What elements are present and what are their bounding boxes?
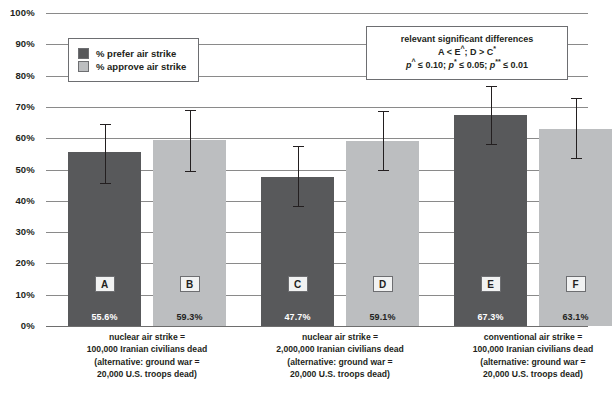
legend: % prefer air strike % approve air strike [68, 38, 199, 82]
x-axis-caption-line: 100,000 Iranian civilians dead [47, 343, 247, 355]
legend-item-approve: % approve air strike [78, 61, 186, 72]
x-axis-caption-line: 20,000 U.S. troops dead) [47, 368, 247, 380]
gridline [46, 232, 588, 233]
annotation-line-2: A < E^; D > C* [373, 46, 561, 59]
gridline [46, 107, 588, 108]
gridline [46, 326, 588, 327]
x-axis-caption-line: (alternative: ground war = [47, 356, 247, 368]
legend-swatch-prefer-icon [78, 48, 89, 59]
x-axis-caption-line: 100,000 Iranian civilians dead [433, 343, 616, 355]
y-axis-tick-label: 30% [0, 226, 35, 237]
x-axis-caption-line: 20,000 U.S. troops dead) [240, 368, 440, 380]
y-axis-tick-label: 60% [0, 132, 35, 143]
significance-annotation: relevant significant differences A < E^;… [366, 26, 568, 80]
x-axis-caption-line: conventional air strike = [433, 331, 616, 343]
x-axis-caption-line: 20,000 U.S. troops dead) [433, 368, 616, 380]
annotation-sup-star: * [493, 45, 496, 52]
p-value-text-2: ≤ 0.05; [457, 60, 490, 70]
x-axis-captions: nuclear air strike =100,000 Iranian civi… [46, 331, 588, 401]
y-axis-tick-label: 70% [0, 101, 35, 112]
x-axis-caption-line: nuclear air strike = [240, 331, 440, 343]
gridline [46, 295, 588, 296]
x-axis-caption-line: (alternative: ground war = [433, 356, 616, 368]
x-axis-group-label-2: nuclear air strike =2,000,000 Iranian ci… [240, 331, 440, 381]
legend-item-prefer: % prefer air strike [78, 48, 186, 59]
legend-label-prefer: % prefer air strike [96, 48, 176, 59]
annotation-comparison-prefix: A < E [438, 47, 460, 57]
y-axis-tick-label: 100% [0, 7, 35, 18]
y-axis-tick-label: 0% [0, 320, 35, 331]
x-axis-caption-line: 2,000,000 Iranian civilians dead [240, 343, 440, 355]
y-axis-tick-label: 90% [0, 38, 35, 49]
legend-label-approve: % approve air strike [96, 61, 186, 72]
p-value-text-3: ≤ 0.01 [501, 60, 528, 70]
y-axis-tick-label: 50% [0, 164, 35, 175]
gridline [46, 201, 588, 202]
y-axis-tick-label: 20% [0, 257, 35, 268]
y-axis-tick-label: 80% [0, 70, 35, 81]
legend-swatch-approve-icon [78, 61, 89, 72]
gridline [46, 138, 588, 139]
gridline [46, 170, 588, 171]
gridline [46, 13, 588, 14]
x-axis-group-label-3: conventional air strike =100,000 Iranian… [433, 331, 616, 381]
annotation-comparison-mid: ; D > C [465, 47, 494, 57]
y-axis-tick-label: 10% [0, 289, 35, 300]
x-axis-group-label-1: nuclear air strike =100,000 Iranian civi… [47, 331, 247, 381]
annotation-line-3: p^ ≤ 0.10; p* ≤ 0.05; p** ≤ 0.01 [373, 59, 561, 72]
annotation-line-1: relevant significant differences [373, 33, 561, 46]
gridline [46, 263, 588, 264]
x-axis-caption-line: nuclear air strike = [47, 331, 247, 343]
y-axis-tick-label: 40% [0, 195, 35, 206]
p-value-text-1: ≤ 0.10; [416, 60, 449, 70]
x-axis-caption-line: (alternative: ground war = [240, 356, 440, 368]
